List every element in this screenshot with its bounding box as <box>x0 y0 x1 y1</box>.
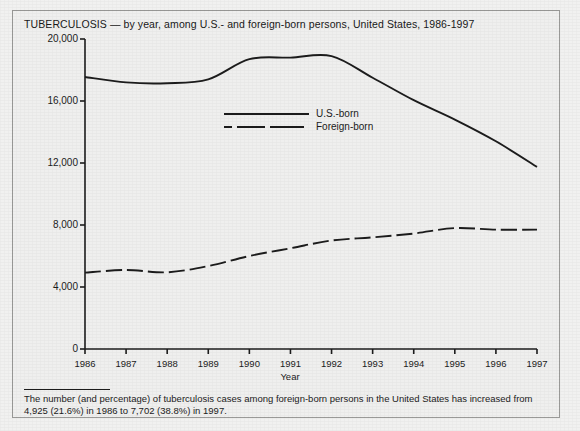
y-tick-label: 4,000 <box>24 281 78 292</box>
y-tick-label: 16,000 <box>24 95 78 106</box>
y-tick-label: 12,000 <box>24 157 78 168</box>
legend-swatch-group <box>224 114 309 127</box>
footnote-divider <box>24 389 110 390</box>
x-tick-label: 1986 <box>65 358 105 369</box>
x-axis-label: Year <box>0 371 580 382</box>
x-tick-label: 1996 <box>476 358 516 369</box>
series-line-u-s-born <box>85 55 537 167</box>
legend-label: U.S.-born <box>316 108 359 119</box>
x-tick-label: 1993 <box>353 358 393 369</box>
axes <box>85 39 537 349</box>
x-tick-label: 1989 <box>188 358 228 369</box>
y-tick-label: 0 <box>24 343 78 354</box>
x-tick-label: 1997 <box>517 358 557 369</box>
y-tick-label: 20,000 <box>24 33 78 44</box>
footnote-text: The number (and percentage) of tuberculo… <box>24 393 548 418</box>
series-line-foreign-born <box>85 228 537 273</box>
x-tick-label: 1992 <box>312 358 352 369</box>
chart-svg <box>12 10 560 418</box>
x-tick-label: 1991 <box>270 358 310 369</box>
plot-area: Reported Cases <box>12 10 560 418</box>
x-tick-label: 1995 <box>435 358 475 369</box>
data-series-group <box>85 55 537 273</box>
x-tick-label: 1987 <box>106 358 146 369</box>
y-tick-label: 8,000 <box>24 219 78 230</box>
legend-label: Foreign-born <box>316 121 373 132</box>
x-tick-label: 1994 <box>394 358 434 369</box>
figure-canvas: TUBERCULOSIS — by year, among U.S.- and … <box>0 0 580 431</box>
x-tick-label: 1988 <box>147 358 187 369</box>
x-tick-label: 1990 <box>229 358 269 369</box>
